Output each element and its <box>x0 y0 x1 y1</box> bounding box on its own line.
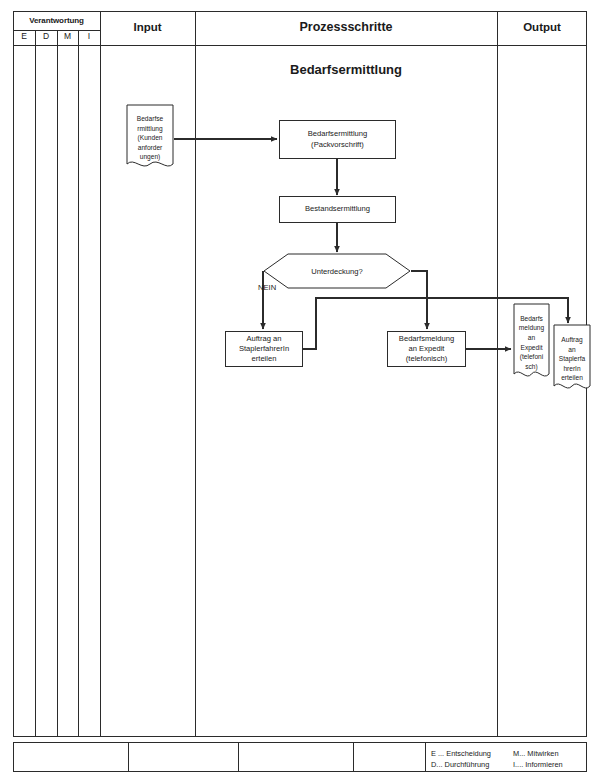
proc-line: Bedarfsmeldung <box>399 334 454 344</box>
doc-line: (Kunden <box>127 133 173 143</box>
process-box-bedarfsmeldung-expedit: Bedarfsmeldung an Expedit (telefonisch) <box>387 331 466 367</box>
col-sep-m-i <box>78 30 79 737</box>
process-box-label: Bedarfsmeldung an Expedit (telefonisch) <box>399 334 454 365</box>
page-canvas: Verantwortung E D M I Input Prozessschri… <box>0 0 599 784</box>
doc-line: (telefoni <box>514 352 549 362</box>
output-document-label: Bedarfs meldung an Expedit (telefoni sch… <box>513 314 550 371</box>
doc-line: Bedarfse <box>127 114 173 124</box>
input-document-label: Bedarfse rmittlung (Kunden anforder unge… <box>126 114 174 162</box>
doc-line: an <box>514 333 549 343</box>
proc-line: erteilen <box>239 354 289 364</box>
doc-line: Staplerfa <box>554 354 590 364</box>
footer-sep-2 <box>238 742 239 772</box>
proc-line: (telefonisch) <box>399 354 454 364</box>
header-col-d: D <box>35 32 57 42</box>
input-document-bedarfsermittlung: Bedarfse rmittlung (Kunden anforder unge… <box>126 104 174 172</box>
col-sep-process-output <box>497 11 498 737</box>
legend: E ... Entscheidung D... Durchführung M..… <box>431 748 581 770</box>
proc-line: StaplerfahrerIn <box>239 344 289 354</box>
doc-line: Bedarfs <box>514 314 549 324</box>
col-sep-i-input <box>100 11 101 737</box>
process-box-bedarfsermittlung: Bedarfsermittlung (Packvorschrift) <box>279 120 396 159</box>
header-col-process: Prozessschritte <box>195 20 497 34</box>
proc-line: Bestandsermittlung <box>305 204 370 214</box>
footer-sep-1 <box>128 742 129 772</box>
output-document-label: Auftrag an Staplerfa hrerIn erteilen <box>553 335 591 383</box>
header-responsibility-group: Verantwortung <box>13 16 100 25</box>
legend-entry-informieren: I.... Informieren <box>513 759 563 770</box>
doc-line: meldung <box>514 323 549 333</box>
proc-line: Auftrag an <box>239 334 289 344</box>
process-box-auftrag-staplerfahrerin: Auftrag an StaplerfahrerIn erteilen <box>225 331 303 367</box>
process-box-bestandsermittlung: Bestandsermittlung <box>279 196 396 223</box>
header-col-input: Input <box>100 21 195 34</box>
legend-entry-mitwirken: M... Mitwirken <box>513 748 563 759</box>
legend-column-right: M... Mitwirken I.... Informieren <box>513 748 563 770</box>
diagram-title: Bedarfsermittlung <box>195 62 497 77</box>
header-col-m: M <box>57 32 78 42</box>
header-col-output: Output <box>497 21 587 34</box>
doc-line: hrerIn <box>554 364 590 374</box>
col-sep-e-d <box>35 30 36 737</box>
col-sep-d-m <box>57 30 58 737</box>
doc-line: anforder <box>127 143 173 153</box>
output-document-auftrag-staplerfahrerin: Auftrag an Staplerfa hrerIn erteilen <box>553 324 591 394</box>
header-col-e: E <box>13 32 35 42</box>
proc-line: an Expedit <box>399 344 454 354</box>
legend-entry-entscheidung: E ... Entscheidung <box>431 748 513 759</box>
process-box-label: Auftrag an StaplerfahrerIn erteilen <box>239 334 289 365</box>
branch-label-nein: NEIN <box>258 283 276 292</box>
output-document-bedarfsmeldung: Bedarfs meldung an Expedit (telefoni sch… <box>513 303 550 382</box>
doc-line: sch) <box>514 362 549 372</box>
proc-line: Bedarfsermittlung <box>308 129 368 139</box>
decision-label: Unterdeckung? <box>263 267 411 276</box>
doc-line: erteilen <box>554 373 590 383</box>
doc-line: Expedit <box>514 343 549 353</box>
doc-line: ungen) <box>127 152 173 162</box>
header-col-i: I <box>78 32 100 42</box>
process-box-label: Bedarfsermittlung (Packvorschrift) <box>308 129 368 150</box>
col-sep-input-process <box>195 11 196 737</box>
process-box-label: Bestandsermittlung <box>305 204 370 214</box>
legend-entry-durchfuehrung: D... Durchführung <box>431 759 513 770</box>
footer-sep-4 <box>425 742 426 772</box>
doc-line: rmittlung <box>127 124 173 134</box>
proc-line: (Packvorschrift) <box>308 140 368 150</box>
legend-column-left: E ... Entscheidung D... Durchführung <box>431 748 513 770</box>
doc-line: Auftrag <box>554 335 590 345</box>
footer-sep-3 <box>353 742 354 772</box>
decision-unterdeckung: Unterdeckung? <box>263 253 411 289</box>
doc-line: an <box>554 345 590 355</box>
